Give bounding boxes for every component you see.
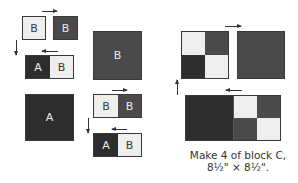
four-patch-tl [233, 96, 257, 118]
label-b: B [126, 139, 134, 152]
arrow-right [112, 90, 127, 91]
four-patch-tl [182, 32, 205, 55]
square-b-light: B [22, 16, 46, 40]
large-square-plain [237, 31, 285, 79]
arrow-right [225, 26, 241, 27]
arrow-left [226, 90, 242, 91]
arrow-down [88, 118, 89, 133]
label-b: B [58, 61, 66, 74]
square-b: B [50, 56, 73, 78]
label-b: B [102, 100, 110, 113]
large-square-a: A [25, 94, 74, 141]
square-b: B [118, 134, 141, 156]
caption-line-2: 8½" × 8½". [182, 161, 294, 173]
label-a: A [102, 139, 110, 152]
arrow-up [177, 80, 178, 95]
four-patch [181, 31, 229, 79]
square-b-light: B [94, 95, 118, 117]
label-b: B [114, 49, 122, 62]
large-dark-section [186, 96, 233, 140]
arrow-right [42, 11, 57, 12]
unit-b-b: B B [93, 94, 142, 118]
label-b: B [126, 100, 134, 113]
arrow-down [16, 40, 17, 55]
square-a: A [94, 134, 118, 156]
label-a: A [34, 61, 42, 74]
four-patch-bl [233, 118, 257, 140]
four-patch-br [257, 118, 280, 140]
four-patch-br [205, 55, 228, 78]
unit-a-b: A B [93, 133, 142, 157]
square-b-dark: B [118, 95, 141, 117]
label-a: A [46, 111, 54, 124]
square-a: A [26, 56, 50, 78]
caption-line-1: Make 4 of block C, [182, 149, 294, 161]
four-patch-bl [182, 55, 205, 78]
label-b: B [62, 22, 70, 35]
square-b-dark: B [53, 16, 78, 40]
arrow-left [112, 129, 127, 130]
four-patch-tr [205, 32, 228, 55]
combined-unit [185, 95, 281, 141]
unit-a-b: A B [25, 55, 74, 79]
large-square-b: B [93, 31, 142, 80]
four-patch-tr [257, 96, 280, 118]
arrow-left [42, 51, 58, 52]
label-b: B [30, 22, 38, 35]
